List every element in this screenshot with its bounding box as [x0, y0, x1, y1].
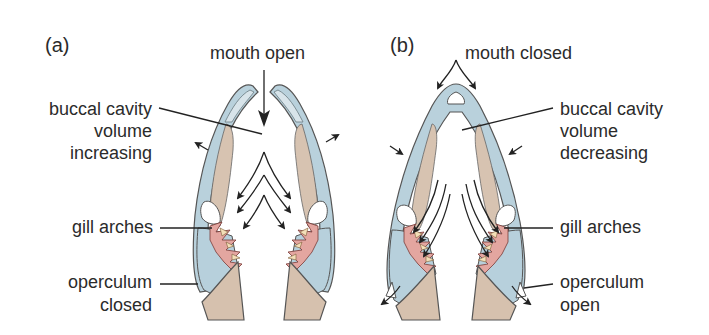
expand-arrow-left — [196, 143, 208, 150]
panel-b-operculum-leader — [524, 284, 553, 288]
panel-a-cavity-label-2: volume — [94, 121, 152, 141]
panel-b-operculum-label-2: open — [560, 295, 600, 315]
panel-a-left-jaw — [193, 85, 258, 320]
compress-arrow-right — [510, 146, 522, 154]
panel-b-cavity-label-2: volume — [560, 121, 618, 141]
panel-a-gill-label: gill arches — [72, 217, 153, 237]
panel-b-gill-label: gill arches — [560, 217, 641, 237]
panel-b-operculum-label-1: operculum — [560, 272, 644, 292]
panel-b-title-mouth-closed: mouth closed — [465, 43, 572, 63]
panel-b-label: (b) — [390, 34, 414, 56]
panel-a-cavity-leader — [159, 108, 262, 134]
panel-b-cavity-label-3: decreasing — [560, 143, 648, 163]
panel-b-cavity-label-1: buccal cavity — [560, 99, 663, 119]
compress-arrow-left — [390, 146, 402, 154]
panel-a-cavity-label-1: buccal cavity — [49, 99, 152, 119]
panel-a-operculum-label-2: closed — [100, 295, 152, 315]
expand-arrow-right — [326, 135, 338, 142]
panel-a-title-mouth-open: mouth open — [210, 43, 305, 63]
water-flow-arrows-a — [238, 152, 290, 228]
panel-a-right-jaw — [270, 85, 335, 320]
panel-a-cavity-label-3: increasing — [70, 143, 152, 163]
panel-a: (a) mouth open — [45, 34, 338, 320]
panel-a-label: (a) — [45, 34, 69, 56]
panel-b: (b) mouth closed — [382, 34, 663, 320]
panel-a-operculum-label-1: operculum — [68, 272, 152, 292]
fish-respiration-diagram: (a) mouth open — [0, 0, 709, 335]
